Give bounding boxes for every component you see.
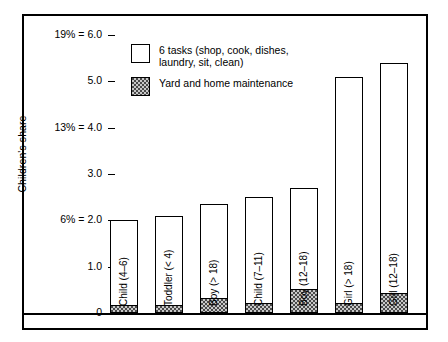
bar-category-label: Girl (> 18) [344, 261, 354, 306]
bar-category-label: Child (7–11) [254, 252, 264, 306]
bar-category-label: Toddler (< 4) [164, 250, 174, 306]
legend-swatch-shaded [131, 77, 150, 96]
bar-7: Girl (12–18) [380, 63, 408, 313]
bar-2: Toddler (< 4) [155, 216, 183, 313]
bar-segment-maintenance [156, 305, 182, 312]
chart-legend: 6 tasks (shop, cook, dishes, laundry, si… [131, 44, 351, 105]
bar-category-label: Girl (12–18) [389, 253, 399, 306]
bar-3: Boy (> 18) [200, 204, 228, 313]
bar-segment-maintenance [111, 305, 137, 312]
legend-label-maintenance: Yard and home maintenance [159, 77, 293, 90]
bar-4: Child (7–11) [245, 197, 273, 313]
bar-5: Boy (12–18) [290, 188, 318, 313]
bar-category-label: Boy (12–18) [299, 252, 309, 306]
bar-6: Girl (> 18) [335, 77, 363, 313]
legend-label-tasks: 6 tasks (shop, cook, dishes, laundry, si… [159, 44, 289, 68]
bar-chart-figure: Children's share 19% = 6.05.013% = 4.03.… [0, 0, 448, 342]
bar-1: Child (4–6) [110, 220, 138, 313]
legend-item-maintenance: Yard and home maintenance [131, 77, 351, 96]
legend-item-tasks: 6 tasks (shop, cook, dishes, laundry, si… [131, 44, 351, 68]
bar-category-label: Child (4–6) [119, 257, 129, 306]
legend-swatch-white [131, 44, 150, 63]
bar-category-label: Boy (> 18) [209, 260, 219, 306]
